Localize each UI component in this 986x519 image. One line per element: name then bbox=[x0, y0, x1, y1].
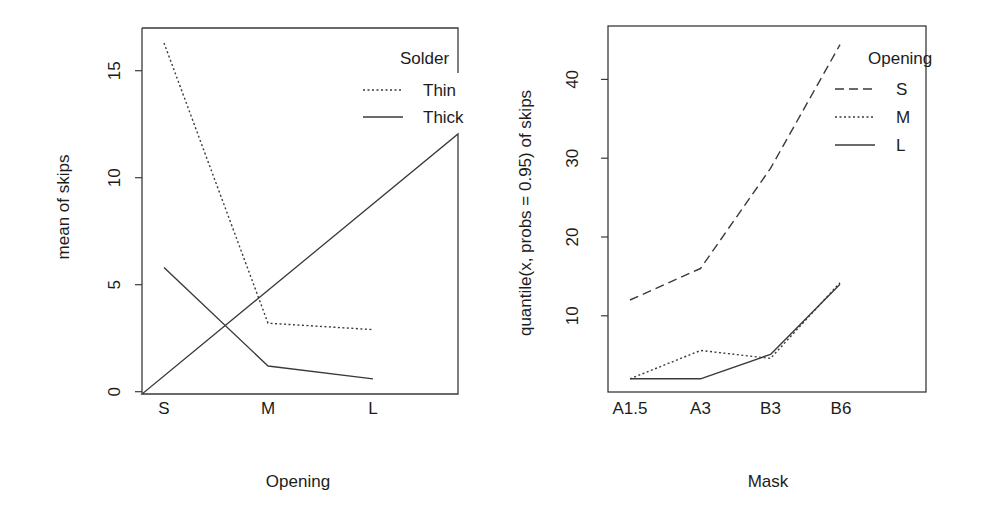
chart-canvas: 0 5 10 15 mean of skips S M L Opening So… bbox=[0, 0, 986, 519]
chart-figure: 0 5 10 15 mean of skips S M L Opening So… bbox=[0, 0, 986, 519]
legend-label: M bbox=[896, 108, 910, 127]
y-axis-title: quantile(x, probs = 0.95) of skips bbox=[516, 90, 535, 336]
y-tick-label: 30 bbox=[563, 149, 582, 168]
legend: Opening S M L bbox=[835, 49, 932, 155]
x-axis-title: Mask bbox=[748, 472, 789, 491]
y-tick-label: 20 bbox=[563, 228, 582, 247]
legend-title: Opening bbox=[868, 49, 932, 68]
y-tick-label: 10 bbox=[105, 168, 124, 187]
legend-label: Thick bbox=[423, 108, 464, 127]
y-tick-label: 0 bbox=[105, 387, 124, 396]
series-line-m bbox=[630, 283, 840, 379]
y-tick-label: 5 bbox=[105, 280, 124, 289]
series-line-thick bbox=[164, 268, 373, 379]
y-axis: 10 20 30 40 quantile(x, probs = 0.95) of… bbox=[516, 70, 608, 336]
y-tick-label: 40 bbox=[563, 70, 582, 89]
x-tick-label: S bbox=[158, 399, 169, 418]
plot-frame bbox=[142, 28, 458, 394]
legend-label: S bbox=[896, 80, 907, 99]
x-tick-label: A3 bbox=[690, 399, 711, 418]
series-line-l bbox=[630, 284, 840, 379]
x-tick-label: B3 bbox=[760, 399, 781, 418]
y-tick-label: 10 bbox=[563, 306, 582, 325]
x-tick-label: B6 bbox=[831, 399, 852, 418]
y-axis-title: mean of skips bbox=[54, 155, 73, 260]
series-line-s bbox=[630, 45, 840, 300]
y-axis: 0 5 10 15 mean of skips bbox=[54, 61, 142, 396]
x-tick-label: M bbox=[261, 399, 275, 418]
x-axis: A1.5 A3 B3 B6 Mask bbox=[613, 399, 852, 491]
x-tick-label: A1.5 bbox=[613, 399, 648, 418]
x-axis: S M L Opening bbox=[158, 399, 377, 491]
legend-label: Thin bbox=[423, 81, 456, 100]
series-line-thin bbox=[164, 43, 373, 330]
interaction-plot-solder: 0 5 10 15 mean of skips S M L Opening So… bbox=[54, 28, 464, 491]
plot-frame bbox=[608, 26, 926, 392]
legend-label: L bbox=[896, 136, 905, 155]
x-tick-label: L bbox=[368, 399, 377, 418]
y-tick-label: 15 bbox=[105, 61, 124, 80]
legend: Solder Thin Thick bbox=[363, 49, 464, 127]
interaction-plot-opening: 10 20 30 40 quantile(x, probs = 0.95) of… bbox=[516, 26, 932, 491]
x-axis-title: Opening bbox=[266, 472, 330, 491]
legend-title: Solder bbox=[400, 49, 449, 68]
